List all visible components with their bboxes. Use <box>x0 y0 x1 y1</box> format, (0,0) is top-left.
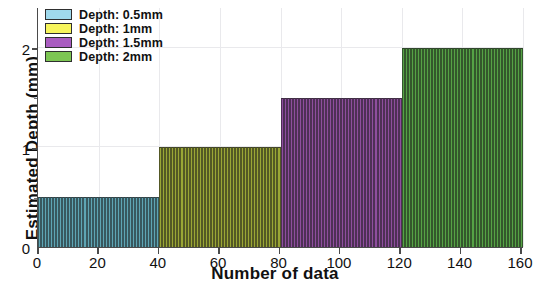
legend-item-0[interactable]: Depth: 0.5mm <box>45 8 163 21</box>
legend-item-3[interactable]: Depth: 2mm <box>45 50 163 63</box>
bar[interactable] <box>520 48 523 247</box>
bar-group <box>38 197 159 247</box>
bar-group <box>281 98 402 247</box>
legend-label-1: Depth: 1mm <box>79 22 152 36</box>
legend-item-2[interactable]: Depth: 1.5mm <box>45 36 163 49</box>
y-tick-label-1: 1 <box>14 141 30 158</box>
legend-label-2: Depth: 1.5mm <box>79 36 163 50</box>
legend-swatch-icon-depth-2mm <box>45 51 72 62</box>
chart-legend: Depth: 0.5mm Depth: 1mm Depth: 1.5mm Dep… <box>45 8 163 63</box>
bar-group <box>159 147 280 247</box>
x-axis-title: Number of data <box>37 264 513 284</box>
legend-swatch-icon-depth-0-5mm <box>45 9 72 20</box>
y-tick-label-2: 2 <box>14 41 30 58</box>
legend-label-0: Depth: 0.5mm <box>79 8 163 22</box>
bar-group <box>402 48 523 247</box>
y-tick-label-0: 0 <box>14 240 30 257</box>
legend-item-1[interactable]: Depth: 1mm <box>45 22 163 35</box>
legend-swatch-icon-depth-1-5mm <box>45 37 72 48</box>
legend-swatch-icon-depth-1mm <box>45 23 72 34</box>
gridline-vertical <box>523 8 524 247</box>
legend-label-3: Depth: 2mm <box>79 50 152 64</box>
